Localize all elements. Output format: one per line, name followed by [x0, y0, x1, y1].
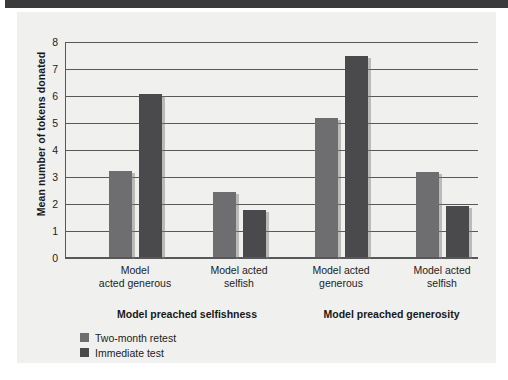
bar-shadow	[439, 174, 442, 259]
legend-item: Immediate test	[80, 345, 176, 360]
bar	[139, 94, 162, 257]
legend-swatch	[80, 333, 89, 342]
bar-shadow	[236, 194, 239, 259]
y-tick-label: 2	[18, 198, 58, 210]
bar-shadow	[132, 173, 135, 259]
x-tick-label-line: selfish	[382, 277, 502, 290]
y-tick-label: 7	[18, 63, 58, 75]
bar-body	[416, 172, 439, 257]
bar	[109, 171, 132, 257]
bar	[446, 206, 469, 257]
gridline-6	[65, 96, 478, 97]
x-tick-label-line: Model acted	[382, 264, 502, 277]
bar-shadow	[266, 212, 269, 259]
y-tick-label: 1	[18, 225, 58, 237]
gridline-4	[65, 150, 478, 151]
y-tick-label: 8	[18, 36, 58, 48]
y-tick-label: 3	[18, 171, 58, 183]
bar-body	[243, 210, 266, 257]
gridline-5	[65, 123, 478, 124]
group-header: Model preached selfishness	[77, 308, 297, 320]
legend-label: Two-month retest	[95, 332, 176, 344]
x-tick-label-line: acted generous	[75, 277, 195, 290]
bar	[213, 192, 236, 257]
bar-body	[213, 192, 236, 257]
x-tick-label: Modelacted generous	[75, 264, 195, 290]
gridline-0	[65, 258, 478, 259]
bar-shadow	[162, 96, 165, 259]
x-tick-label: Model actedselfish	[382, 264, 502, 290]
gridline-7	[65, 69, 478, 70]
plot-box: 876543210	[65, 42, 478, 258]
bar-body	[139, 94, 162, 257]
bar-shadow	[368, 58, 371, 259]
legend-label: Immediate test	[95, 347, 164, 359]
bar-body	[315, 118, 338, 257]
y-tick-label: 4	[18, 144, 58, 156]
y-tick-label: 0	[18, 252, 58, 264]
legend-swatch	[80, 348, 89, 357]
gridline-8	[65, 42, 478, 43]
bar-body	[446, 206, 469, 257]
bar	[243, 210, 266, 257]
bar	[315, 118, 338, 257]
x-tick-label-line: Model	[75, 264, 195, 277]
figure-panel: Mean number of tokens donated 876543210 …	[17, 12, 496, 363]
top-decorative-band	[5, 0, 508, 8]
group-header: Model preached generosity	[282, 308, 502, 320]
legend-item: Two-month retest	[80, 330, 176, 345]
bar	[416, 172, 439, 257]
bar-body	[345, 56, 368, 257]
y-tick-label: 6	[18, 90, 58, 102]
bar-body	[109, 171, 132, 257]
y-tick-label: 5	[18, 117, 58, 129]
bar-shadow	[469, 208, 472, 259]
chart-area: Mean number of tokens donated 876543210 …	[17, 12, 496, 363]
bar	[345, 56, 368, 257]
bar-shadow	[338, 120, 341, 259]
legend: Two-month retestImmediate test	[80, 330, 176, 360]
